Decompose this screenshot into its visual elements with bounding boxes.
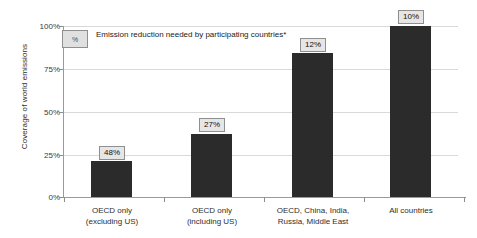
y-tick-label-75: 75% xyxy=(30,65,60,74)
bar-oecd-china-india-russia-middleeast[interactable] xyxy=(292,53,333,197)
x-tick-mark-1 xyxy=(164,197,165,202)
chart-screenshot: Coverage of world emissions 100% 75% 50%… xyxy=(0,0,477,238)
category-label-oecd-excluding-us: OECD only (excluding US) xyxy=(86,205,138,227)
data-label-bar3: 12% xyxy=(300,38,326,52)
x-tick-mark-2 xyxy=(264,197,265,202)
x-tick-mark-4 xyxy=(464,197,465,202)
category-label-all-countries: All countries xyxy=(389,205,433,216)
category-label-line2: (excluding US) xyxy=(86,216,138,227)
category-label-oecd-including-us: OECD only (including US) xyxy=(187,205,237,227)
percent-icon: % xyxy=(62,30,88,48)
x-tick-mark-0 xyxy=(64,197,65,202)
category-label-line1: OECD only xyxy=(187,205,237,216)
y-tick-label-50: 50% xyxy=(30,108,60,117)
y-tick-label-0: 0% xyxy=(30,193,60,202)
x-tick-mark-3 xyxy=(364,197,365,202)
category-label-line1: All countries xyxy=(389,205,433,216)
category-label-line1: OECD only xyxy=(86,205,138,216)
bars-layer xyxy=(64,26,467,197)
bar-oecd-including-us[interactable] xyxy=(191,134,232,197)
y-tick-label-25: 25% xyxy=(30,151,60,160)
y-axis-title: Coverage of world emissions xyxy=(20,7,29,187)
category-label-line2: Russia, Middle East xyxy=(277,216,349,227)
data-label-bar1: 48% xyxy=(99,146,125,160)
category-label-oecd-china-india-russia-middleeast: OECD, China, India, Russia, Middle East xyxy=(277,205,349,227)
legend: % Emission reduction needed by participa… xyxy=(62,29,286,48)
category-label-line1: OECD, China, India, xyxy=(277,205,349,216)
data-label-bar4: 10% xyxy=(398,10,424,24)
bar-all-countries[interactable] xyxy=(390,26,431,197)
bar-oecd-excluding-us[interactable] xyxy=(91,161,132,197)
category-label-line2: (including US) xyxy=(187,216,237,227)
y-tick-label-100: 100% xyxy=(30,22,60,31)
legend-label: Emission reduction needed by participati… xyxy=(96,29,286,40)
data-label-bar2: 27% xyxy=(199,118,225,132)
